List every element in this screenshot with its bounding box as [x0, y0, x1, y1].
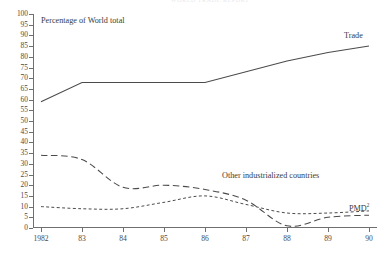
x-axis-tick: [369, 228, 370, 232]
y-axis-tick-label: 35: [21, 149, 28, 156]
series-label-pmd-footnote: 2: [367, 202, 370, 208]
y-axis-tick-label: 0: [24, 224, 28, 231]
x-axis-tick-label: 88: [283, 235, 291, 243]
chart-figure: WORLD TRADE REPORT 051015202530354045505…: [0, 0, 390, 253]
x-axis-tick-label: 86: [201, 235, 209, 243]
y-axis-tick-label: 90: [21, 32, 28, 39]
y-axis-tick-label: 25: [21, 171, 28, 178]
x-axis-tick: [41, 228, 42, 232]
running-head: WORLD TRADE REPORT: [135, 0, 285, 5]
x-axis-tick: [82, 228, 83, 232]
y-axis-tick-label: 80: [21, 53, 28, 60]
series-label-pmd: PMD2: [349, 202, 369, 213]
y-axis-tick-label: 60: [21, 96, 28, 103]
series-lines: [33, 14, 377, 228]
y-axis-tick-label: 45: [21, 128, 28, 135]
x-axis-tick-label: 87: [242, 235, 250, 243]
x-axis-tick: [287, 228, 288, 232]
y-axis-tick-label: 75: [21, 64, 28, 71]
axis-note: Percentage of World total: [41, 16, 125, 25]
series-line-trade: [41, 46, 369, 102]
y-axis-tick-label: 40: [21, 139, 28, 146]
x-axis-tick: [246, 228, 247, 232]
x-axis-tick-label: 85: [160, 235, 168, 243]
x-axis-tick: [205, 228, 206, 232]
series-label-other-industrialized: Other industrialized countries: [222, 171, 319, 180]
y-axis-tick: [29, 228, 33, 229]
x-axis-tick-label: 83: [78, 235, 86, 243]
y-axis-tick-label: 30: [21, 160, 28, 167]
series-line-pmd: [41, 196, 369, 214]
x-axis-tick-label: 89: [324, 235, 332, 243]
x-axis-tick-label: 90: [365, 235, 373, 243]
y-axis-tick-label: 65: [21, 85, 28, 92]
x-axis-tick: [328, 228, 329, 232]
plot-area: 0510152025303540455055606570758085909510…: [33, 14, 377, 228]
x-axis-tick: [164, 228, 165, 232]
y-axis-tick-label: 85: [21, 42, 28, 49]
series-label-trade: Trade: [344, 31, 363, 40]
y-axis-tick-label: 10: [21, 203, 28, 210]
y-axis-tick-label: 15: [21, 192, 28, 199]
series-label-pmd-text: PMD: [349, 204, 367, 213]
y-axis-tick-label: 20: [21, 181, 28, 188]
y-axis-tick-label: 5: [24, 214, 28, 221]
x-axis-tick: [123, 228, 124, 232]
x-axis-tick-label: 84: [119, 235, 127, 243]
series-line-other-industrialized-countries: [41, 155, 369, 226]
y-axis-tick-label: 70: [21, 74, 28, 81]
y-axis-tick-label: 55: [21, 107, 28, 114]
y-axis-tick-label: 100: [17, 10, 28, 17]
y-axis-tick-label: 95: [21, 21, 28, 28]
y-axis-tick-label: 50: [21, 117, 28, 124]
x-axis-tick-label: 1982: [33, 235, 48, 243]
